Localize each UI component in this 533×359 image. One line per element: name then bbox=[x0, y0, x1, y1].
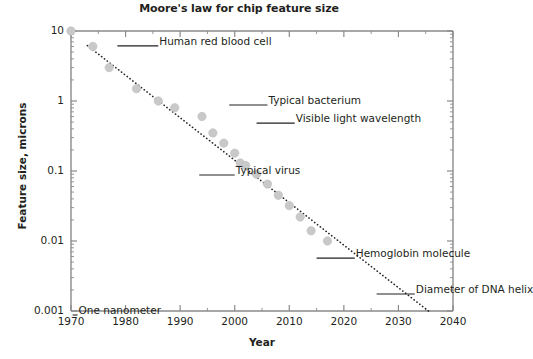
annotation-typical-bacterium: Typical bacterium bbox=[268, 94, 361, 106]
y-tick-label: 0.1 bbox=[18, 164, 64, 176]
data-point bbox=[89, 42, 97, 50]
annotation-leader-lines bbox=[73, 46, 415, 315]
data-point bbox=[220, 139, 228, 147]
annotation-diameter-of-dna-helix: Diameter of DNA helix bbox=[416, 283, 533, 295]
y-tick-label: 0.01 bbox=[18, 234, 64, 246]
data-point bbox=[105, 63, 113, 71]
data-points bbox=[67, 27, 332, 245]
x-tick-label: 2020 bbox=[321, 315, 367, 327]
data-point bbox=[307, 227, 315, 235]
data-point bbox=[209, 129, 217, 137]
data-point bbox=[231, 149, 239, 157]
x-tick-label: 1990 bbox=[157, 315, 203, 327]
x-tick-label: 2010 bbox=[266, 315, 312, 327]
data-point bbox=[198, 112, 206, 120]
data-point bbox=[263, 180, 271, 188]
data-point bbox=[67, 27, 75, 35]
annotation-one-nanometer: One nanometer bbox=[79, 304, 161, 316]
annotation-visible-light-wavelength: Visible light wavelength bbox=[296, 112, 421, 124]
x-tick-label: 2000 bbox=[212, 315, 258, 327]
data-point bbox=[170, 104, 178, 112]
data-point bbox=[132, 84, 140, 92]
data-point bbox=[274, 191, 282, 199]
annotation-human-red-blood-cell: Human red blood cell bbox=[159, 35, 271, 47]
annotation-hemoglobin-molecule: Hemoglobin molecule bbox=[356, 247, 470, 259]
data-point bbox=[296, 213, 304, 221]
y-tick-label: 1 bbox=[18, 94, 64, 106]
annotation-typical-virus: Typical virus bbox=[236, 164, 301, 176]
x-tick-label: 1970 bbox=[48, 315, 94, 327]
x-tick-label: 1980 bbox=[103, 315, 149, 327]
data-point bbox=[285, 201, 293, 209]
x-tick-label: 2040 bbox=[430, 315, 476, 327]
data-point bbox=[154, 97, 162, 105]
y-tick-label: 10 bbox=[18, 24, 64, 36]
x-tick-label: 2030 bbox=[375, 315, 421, 327]
data-point bbox=[323, 237, 331, 245]
